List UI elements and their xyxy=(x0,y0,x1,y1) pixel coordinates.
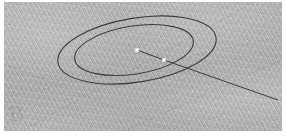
viewport-margin-bottom xyxy=(0,131,286,138)
drawing-viewport[interactable]: B xyxy=(4,2,282,131)
viewport-margin-top xyxy=(0,0,286,2)
screenshot-root: B xyxy=(0,0,286,138)
faint-construction-lines xyxy=(4,2,282,131)
inner-ellipse[interactable] xyxy=(71,17,197,83)
edge-point-marker[interactable] xyxy=(162,58,165,61)
center-point-marker[interactable] xyxy=(135,48,138,51)
corner-watermark: B xyxy=(8,100,25,126)
viewport-margin-right xyxy=(282,0,286,138)
leader-line[interactable] xyxy=(164,60,278,100)
vector-overlay: B xyxy=(4,2,282,131)
viewport-margin-left xyxy=(0,0,4,138)
radius-line[interactable] xyxy=(137,50,164,60)
